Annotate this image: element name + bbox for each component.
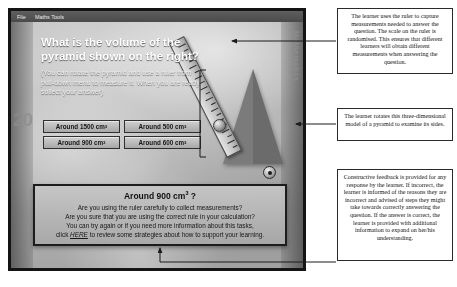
feedback-panel: Around 900 cm3 ? Are you using the ruler… bbox=[33, 184, 287, 246]
application-window: 20 Mathematics File Maths Tools What is … bbox=[8, 8, 306, 271]
menubar: File Maths Tools bbox=[11, 11, 303, 22]
feedback-here-link[interactable]: HERE bbox=[70, 231, 88, 238]
answer-option-2[interactable]: Around 500 cm3 bbox=[124, 120, 201, 133]
feedback-line-4-after: to review some strategies about how to s… bbox=[88, 231, 264, 238]
model-area bbox=[201, 39, 301, 179]
answer-option-4[interactable]: Around 600 cm3 bbox=[124, 136, 201, 149]
background-left-band bbox=[11, 11, 33, 268]
answer-option-1-exponent: 3 bbox=[105, 124, 107, 129]
feedback-line-1: Are you using the ruler carefully to col… bbox=[41, 203, 279, 212]
answer-option-1[interactable]: Around 1500 cm3 bbox=[43, 120, 120, 133]
annotation-feedback: Constructive feedback is provided for an… bbox=[337, 169, 453, 261]
feedback-line-4: click HERE to review some strategies abo… bbox=[41, 230, 279, 239]
answer-option-3-exponent: 3 bbox=[103, 140, 105, 145]
feedback-line-4-before: click bbox=[56, 231, 70, 238]
menu-item-maths-tools[interactable]: Maths Tools bbox=[35, 14, 64, 20]
answer-option-4-exponent: 3 bbox=[184, 140, 186, 145]
question-title: What is the volume of the pyramid shown … bbox=[41, 35, 206, 63]
feedback-heading-text: Around 900 cm bbox=[124, 191, 185, 201]
feedback-heading-suffix: ? bbox=[188, 191, 196, 201]
annotation-ruler: The learner uses the ruler to capture me… bbox=[337, 8, 453, 74]
answer-option-1-label: Around 1500 cm bbox=[56, 123, 105, 130]
question-block: What is the volume of the pyramid shown … bbox=[41, 35, 206, 97]
answer-options: Around 1500 cm3 Around 500 cm3 Around 90… bbox=[43, 120, 201, 149]
annotation-model: The learner rotates this three-dimension… bbox=[337, 108, 453, 141]
rotate-play-button[interactable] bbox=[263, 166, 276, 179]
answer-option-3-label: Around 900 cm bbox=[58, 139, 104, 146]
background-left-number: 20 bbox=[13, 109, 32, 131]
feedback-line-2: Are you sure that you are using the corr… bbox=[41, 212, 279, 221]
answer-option-4-label: Around 600 cm bbox=[139, 139, 185, 146]
question-hint: (You can rotate the pyramid and use a ru… bbox=[41, 68, 206, 97]
answer-option-2-exponent: 3 bbox=[184, 124, 186, 129]
feedback-line-3: You can try again or if you need more in… bbox=[41, 221, 279, 230]
pyramid-shading bbox=[253, 69, 283, 164]
answer-option-2-label: Around 500 cm bbox=[139, 123, 185, 130]
feedback-heading: Around 900 cm3 ? bbox=[41, 190, 279, 201]
menu-item-file[interactable]: File bbox=[17, 14, 26, 20]
ruler-drag-knob[interactable] bbox=[213, 119, 226, 132]
answer-option-3[interactable]: Around 900 cm3 bbox=[43, 136, 120, 149]
